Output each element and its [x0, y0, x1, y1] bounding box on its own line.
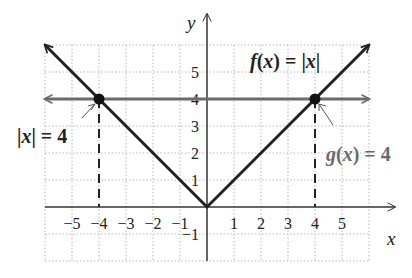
x-tick-label: −4: [90, 215, 107, 232]
absolute-value-graph: −5−4−3−2−112345−112345 y x f(x) = |x| g(…: [0, 0, 412, 278]
y-tick-label: 1: [191, 172, 199, 189]
g-function-label: g(x) = 4: [325, 143, 391, 166]
x-tick-label: −5: [63, 215, 80, 232]
y-axis-label: y: [185, 12, 196, 33]
y-tick-label: 3: [191, 118, 199, 135]
callout-line-right: [319, 104, 333, 125]
intersection-point: [94, 94, 105, 105]
x-tick-label: −3: [117, 215, 134, 232]
x-tick-label: −2: [144, 215, 161, 232]
x-tick-label: 2: [257, 215, 265, 232]
callout-arrowhead-left: [88, 104, 95, 110]
equation-label: |x| = 4: [17, 125, 67, 148]
x-tick-label: 1: [230, 215, 238, 232]
f-function-label: f(x) = |x|: [250, 50, 320, 73]
x-tick-label: 5: [338, 215, 346, 232]
y-tick-label: −1: [182, 226, 199, 243]
x-axis-label: x: [386, 228, 396, 249]
x-tick-label: 3: [284, 215, 292, 232]
y-tick-label: 5: [191, 64, 199, 81]
intersection-point: [310, 94, 321, 105]
x-tick-label: 4: [311, 215, 319, 232]
y-tick-label: 2: [191, 145, 199, 162]
